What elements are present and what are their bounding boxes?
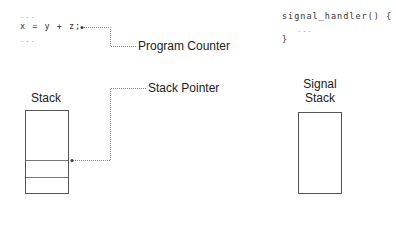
stack-frame-divider-2 bbox=[26, 177, 68, 178]
signal-stack-label-line1: Signal bbox=[298, 77, 342, 91]
stack-pointer-arrow bbox=[73, 89, 146, 161]
stack-pointer-arrowhead-icon bbox=[70, 159, 73, 162]
stack-frame-divider-1 bbox=[26, 160, 68, 161]
stack-pointer-label: Stack Pointer bbox=[148, 81, 219, 95]
program-counter-arrowhead-icon bbox=[80, 26, 83, 29]
signal-stack-box bbox=[298, 112, 342, 194]
signal-stack-label: Signal Stack bbox=[298, 77, 342, 105]
stack-box bbox=[25, 110, 69, 194]
program-counter-label: Program Counter bbox=[138, 39, 230, 53]
program-counter-arrow bbox=[84, 28, 136, 47]
stack-label: Stack bbox=[31, 91, 61, 105]
signal-stack-label-line2: Stack bbox=[298, 91, 342, 105]
